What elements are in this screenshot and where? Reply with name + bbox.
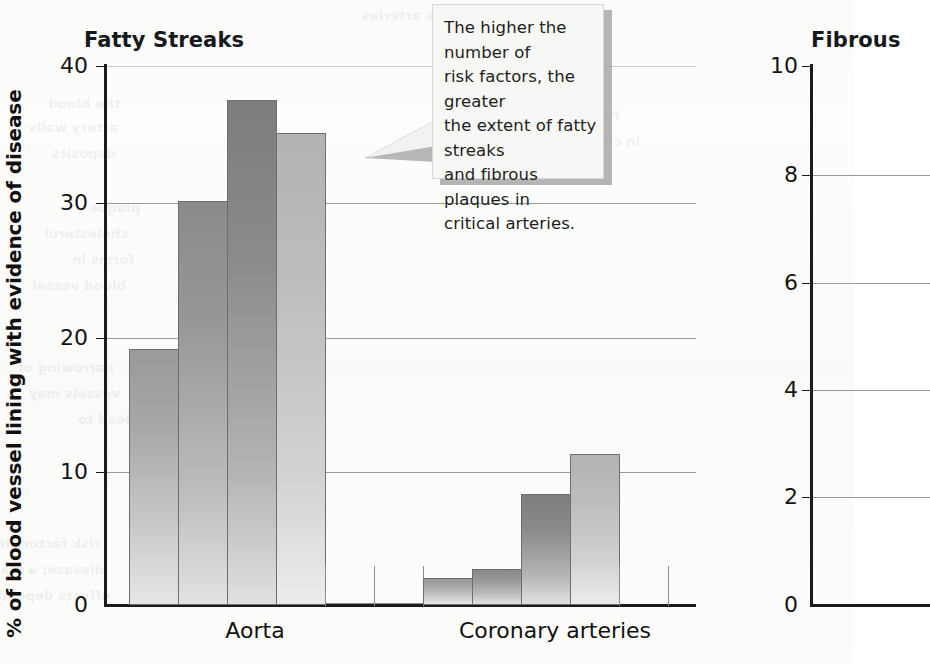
y-tick-label-10: 10: [26, 459, 88, 484]
y-tick-mark-f-4: [802, 390, 811, 391]
callout-line-5: critical arteries.: [444, 212, 604, 237]
gridline-f-2: [810, 497, 930, 498]
y-tick-label-f-2: 2: [732, 484, 798, 509]
chart-title-fatty-streaks: Fatty Streaks: [84, 28, 244, 52]
bar-aorta-1: [178, 201, 228, 605]
bar-coronary-3: [570, 454, 620, 605]
y-tick-mark-f-6: [802, 283, 811, 284]
y-axis-line-fibrous-plaques: [810, 64, 813, 607]
y-tick-mark-f-8: [802, 175, 811, 176]
y-tick-mark-10: [96, 472, 105, 473]
chart-fibrous-plaques: Fibrous 10 8 6 4 2 0: [740, 0, 854, 664]
y-tick-label-f-8: 8: [732, 162, 798, 187]
bar-aorta-3: [276, 133, 326, 605]
y-tick-label-f-0: 0: [732, 592, 798, 617]
bar-aorta-0: [129, 349, 179, 605]
x-category-label-aorta: Aorta: [175, 618, 335, 643]
slot-divider-coronary-end-2: [668, 566, 669, 606]
x-axis-line-fibrous-plaques: [810, 604, 930, 607]
y-axis-line-fatty-streaks: [104, 64, 107, 607]
bar-slot-empty-2: [374, 603, 424, 606]
x-category-label-coronary-arteries: Coronary arteries: [415, 618, 695, 643]
bar-coronary-0: [423, 578, 473, 605]
y-tick-mark-20: [96, 338, 105, 339]
bar-aorta-2: [227, 100, 277, 605]
bar-slot-empty-1: [325, 603, 375, 606]
slot-divider-gap: [374, 566, 375, 606]
y-tick-label-20: 20: [26, 325, 88, 350]
bar-coronary-1: [472, 569, 522, 605]
callout-line-3: the extent of fatty streaks: [444, 114, 604, 163]
y-tick-label-0: 0: [26, 592, 88, 617]
callout-line-4: and fibrous plaques in: [444, 163, 604, 212]
slot-divider-aorta: [325, 566, 326, 606]
gridline-f-6: [810, 283, 930, 284]
chart-title-fibrous-plaques: Fibrous: [811, 28, 901, 52]
y-tick-mark-40: [96, 66, 105, 67]
callout-line-2: risk factors, the greater: [444, 65, 604, 114]
y-tick-mark-f-10: [802, 66, 811, 67]
y-tick-label-f-4: 4: [732, 377, 798, 402]
gridline-f-4: [810, 390, 930, 391]
y-tick-label-f-10: 10: [732, 53, 798, 78]
y-tick-mark-30: [96, 203, 105, 204]
y-tick-label-30: 30: [26, 190, 88, 215]
y-tick-label-f-6: 6: [732, 270, 798, 295]
y-tick-label-40: 40: [26, 53, 88, 78]
y-axis-label-fatty-streaks: % of blood vessel lining with evidence o…: [2, 89, 26, 638]
y-tick-mark-f-2: [802, 497, 811, 498]
slot-divider-coronary-end: [619, 566, 620, 606]
annotation-callout-text: The higher the number of risk factors, t…: [444, 16, 604, 237]
gridline-f-8: [810, 175, 930, 176]
callout-line-1: The higher the number of: [444, 16, 604, 65]
bar-coronary-2: [521, 494, 571, 605]
